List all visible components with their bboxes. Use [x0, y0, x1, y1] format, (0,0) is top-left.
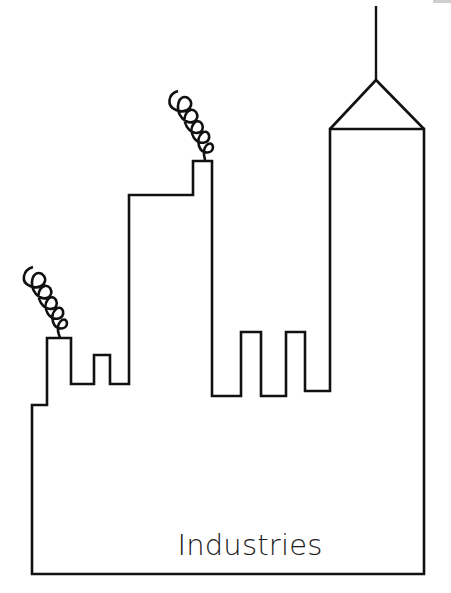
smoke-coil-center-icon [169, 91, 213, 161]
diagram-title-label: Industries [150, 528, 350, 562]
skyscraper-roof-icon [330, 80, 424, 129]
scan-corner-mark [433, 0, 451, 3]
skyline-outline [32, 129, 424, 574]
smoke-coil-left-icon [24, 267, 67, 338]
industries-skyline-diagram [0, 0, 451, 593]
